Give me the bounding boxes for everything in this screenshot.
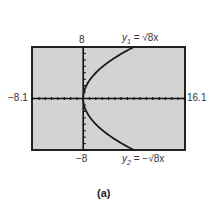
ymin-label: −8: [76, 154, 87, 164]
graph-window: [0, 0, 211, 217]
ymax-label: 8: [79, 35, 85, 45]
figure-caption: (a): [97, 187, 110, 199]
y1-equation-label: y1 = √8x: [122, 33, 158, 47]
xmax-label: 16.1: [187, 93, 206, 103]
y2-equation-label: y2 = −√8x: [122, 154, 164, 168]
xmin-label: −8.1: [8, 93, 28, 103]
